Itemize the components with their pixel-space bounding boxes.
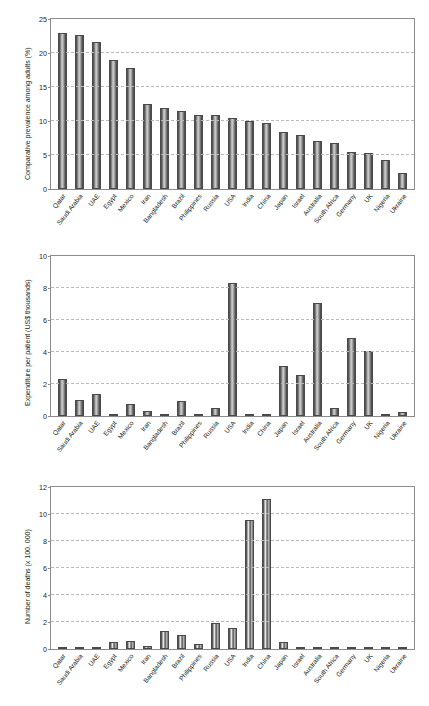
bar-cell [139,19,156,189]
bar-cell [241,487,258,649]
bar [177,401,186,416]
bar-cell [207,256,224,416]
bar [279,132,288,189]
bar-cell [394,487,411,649]
bar [313,303,322,416]
x-axis-label-cell: Germany [344,192,361,240]
x-axis-label-cell: Bangladesh [156,192,173,240]
bar [177,635,186,649]
bar-cell [224,487,241,649]
bar [92,394,101,416]
x-axis-tick-label: Japan [273,193,289,211]
x-axis-tick-label: China [256,420,272,438]
bar-cell [241,256,258,416]
x-axis-tick-label: Israel [291,420,306,437]
gridline: 10 [51,513,414,514]
x-axis-label-cell: USA [224,192,241,240]
bar-series-1 [51,19,414,189]
gridline: 4 [51,351,414,352]
x-axis-label-cell: Mexico [121,192,138,240]
bar [211,623,220,649]
bar [279,366,288,416]
bar [58,379,67,416]
y-axis-tick-label: 4 [7,349,51,356]
x-axis-label-cell: Japan [275,652,292,700]
bar-cell [292,256,309,416]
y-axis-tick-label: 8 [7,285,51,292]
bar [194,115,203,189]
gridline: 15 [51,86,414,87]
x-axis-label-cell: India [241,652,258,700]
chart-panel-expenditure: Expenditure per patient (US$ thousands) … [0,243,429,471]
x-axis-label-cell: India [241,192,258,240]
gridline: 0 [51,415,414,416]
bar-cell [258,256,275,416]
bar-cell [122,256,139,416]
x-axis-tick-label: USA [224,193,238,208]
bar-cell [173,256,190,416]
gridline: 8 [51,540,414,541]
bar [58,33,67,189]
y-axis-tick-label: 2 [7,381,51,388]
x-axis-label-cell: USA [224,652,241,700]
bar-cell [377,487,394,649]
gridline: 0 [51,188,414,189]
y-axis-tick-mark [48,155,51,156]
bar-cell [258,19,275,189]
bar-cell [190,487,207,649]
y-axis-tick-label: 10 [7,511,51,518]
bar-cell [326,487,343,649]
x-axis-label-cell: Egypt [104,419,121,467]
gridline: 0 [51,648,414,649]
y-axis-tick-mark [48,87,51,88]
bar-cell [309,487,326,649]
y-axis-tick-label: 0 [7,186,51,193]
y-axis-tick-mark [48,19,51,20]
bar-cell [156,487,173,649]
x-axis-label-cell: Nigeria [378,419,395,467]
gridline: 2 [51,621,414,622]
x-axis-label-cell: Germany [344,419,361,467]
bar-cell [71,487,88,649]
y-axis-tick-mark [48,384,51,385]
bar [92,42,101,189]
y-axis-tick-label: 10 [7,118,51,125]
bar-cell [54,487,71,649]
bar-cell [207,487,224,649]
bar [381,160,390,189]
bar-cell [360,487,377,649]
gridline: 10 [51,120,414,121]
x-axis-tick-label: Israel [291,653,306,670]
bar-cell [258,487,275,649]
gridline: 20 [51,52,414,53]
bar [211,115,220,189]
plot-area-1: 0510152025 [50,18,415,190]
bar [75,35,84,189]
x-axis-label-cell: Ukraine [395,652,412,700]
x-axis-label-cell: Bangladesh [156,419,173,467]
bar-cell [190,19,207,189]
x-axis-label-cell: UAE [87,652,104,700]
bar-cell [309,256,326,416]
x-axis-tick-label: UAE [87,653,101,668]
y-axis-tick-mark [48,416,51,417]
bar [177,111,186,189]
x-axis-tick-label: Iran [140,653,152,666]
x-axis-tick-label: UK [364,420,375,431]
x-axis-tick-label: Japan [273,653,289,671]
x-axis-tick-label: China [256,193,272,211]
gridline: 4 [51,594,414,595]
chart-panel-prevalence: Comparative prevalence among adults (%) … [0,2,429,238]
y-axis-tick-label: 6 [7,565,51,572]
y-axis-tick-mark [48,288,51,289]
bar-cell [122,487,139,649]
x-axis-tick-label: UK [364,193,375,204]
y-axis-tick-label: 15 [7,84,51,91]
bar [313,141,322,189]
y-axis-tick-label: 4 [7,592,51,599]
x-axis-label-cell: Philippines [190,652,207,700]
x-axis-labels-1: QatarSaudi ArabiaUAEEgyptMexicoIranBangl… [50,192,415,240]
bar-series-2 [51,256,414,416]
bar [398,173,407,189]
y-axis-title-1: Comparative prevalence among adults (%) [24,47,32,180]
